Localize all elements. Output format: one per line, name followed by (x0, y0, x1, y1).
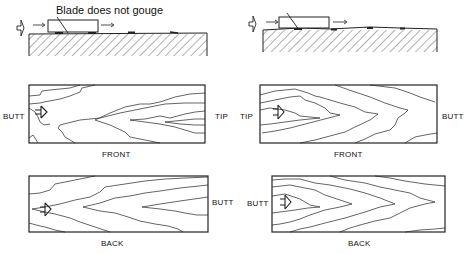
top-left-section (17, 17, 207, 56)
direction-arrow-icon (249, 16, 256, 32)
mid-right-butt-label: BUTT (442, 112, 464, 121)
mid-left-butt-label: BUTT (3, 112, 25, 121)
bottom-right-butt-label: BUTT (247, 199, 269, 208)
back-grain-left (29, 176, 208, 232)
mid-right-tip-label: TIP (240, 112, 253, 121)
blade-block (279, 17, 329, 28)
direction-arrow-icon (17, 20, 24, 36)
bottom-right-back-caption: BACK (348, 239, 371, 248)
top-right-section (249, 13, 437, 52)
mid-left-front-caption: FRONT (102, 150, 131, 159)
bottom-left-butt-label: BUTT (212, 198, 234, 207)
top-left-caption: Blade does not gouge (56, 4, 163, 16)
mid-right-front-caption: FRONT (334, 150, 363, 159)
diagram-canvas (0, 0, 464, 254)
substrate-hatch (29, 34, 207, 56)
mid-left-tip-label: TIP (215, 112, 228, 121)
blade-block (48, 20, 98, 32)
front-grain-left (29, 85, 205, 143)
bottom-left-back-caption: BACK (101, 239, 124, 248)
front-grain-right (260, 85, 437, 143)
back-grain-right (272, 176, 445, 232)
substrate-hatch (263, 30, 437, 52)
